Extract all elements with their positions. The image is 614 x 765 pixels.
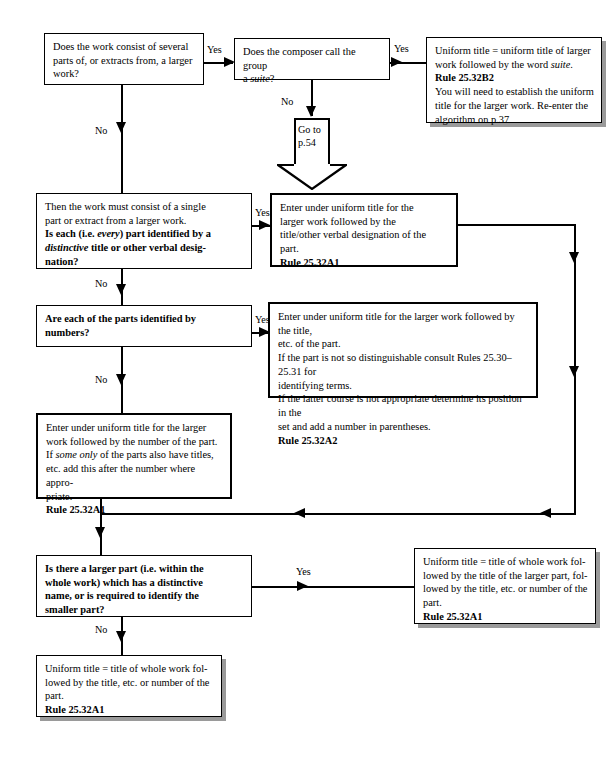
r4-line-4: etc. add this after the number where app… [46, 462, 223, 489]
edge-q3-to-r2-arrowhead [259, 220, 270, 230]
r3-rule: Rule 25.32A2 [278, 434, 529, 448]
q3-line-1: Then the work must consist of a single [45, 200, 244, 214]
r3-line-5: If the latter course is not appropriate … [278, 392, 529, 419]
edge-label-no-q4: No [95, 374, 107, 385]
edge-label-no-q2: No [281, 96, 293, 107]
q3-line3-italic: every [97, 228, 120, 239]
edge-label-no-q1: No [95, 125, 107, 136]
flowchart-canvas: Does the work consist of several parts o… [0, 0, 614, 765]
edge-q4-to-r4-arrowhead [116, 374, 126, 385]
edge-q3-to-q4-arrowhead [116, 284, 126, 295]
r3-line-6: set and add a number in parentheses. [278, 420, 529, 434]
result-verbal-designation-box[interactable]: Enter under uniform title for the larger… [270, 193, 458, 267]
r1-line2-post: . [570, 59, 573, 70]
merge-rail-arrowhead-right [540, 508, 551, 518]
r4-line3-post: of the parts also have titles, [97, 449, 213, 460]
q3-line-2: part or extract from a larger work. [45, 214, 244, 228]
r1-rule: Rule 25.32B2 [435, 71, 594, 85]
r3-line-1: Enter under uniform title for the larger… [278, 310, 529, 337]
result-uniform-title-suite-box[interactable]: Uniform title = uniform title of larger … [426, 37, 602, 123]
q1-line-2: parts of, or extracts from, a larger [53, 54, 196, 68]
r4-line-2: work followed by the number of the part. [46, 435, 223, 449]
r5-line-2: lowed by the title of the larger part, f… [423, 569, 588, 583]
r4-line-1: Enter under uniform title for the larger [46, 421, 223, 435]
goto-label: Go to p.54 [298, 123, 330, 150]
r1-line2-italic: suite [551, 59, 571, 70]
r1-line-1: Uniform title = uniform title of larger [435, 44, 594, 58]
result-whole-work-larger-part-box[interactable]: Uniform title = title of whole work fol-… [414, 548, 596, 624]
r5-rule: Rule 25.32A1 [423, 610, 588, 624]
goto-line-2: p.54 [298, 136, 330, 149]
q3-line4-post: title or other verbal desig- [88, 242, 206, 253]
q3-line-3: Is each (i.e. every) part identified by … [45, 227, 244, 241]
goto-line-1: Go to [298, 123, 330, 136]
edge-rail-to-q5-arrowhead [95, 527, 105, 538]
goto-page-54-shape[interactable]: Go to p.54 [277, 118, 347, 192]
q3-line3-post: ) part identified by a [120, 228, 211, 239]
question-parts-numbers-box[interactable]: Are each of the parts identified by numb… [36, 305, 252, 347]
q4-line-1: Are each of the parts identified by [45, 312, 244, 326]
r5-line-3: lowed by the title, etc. or number of th… [423, 582, 588, 596]
r6-line-2: lowed by the title, etc. or number of th… [45, 676, 214, 690]
question-composer-suite-box[interactable]: Does the composer call the group a suite… [234, 38, 390, 80]
q3-line3-pre: Is each (i.e. [45, 228, 97, 239]
q5-line-1: Is there a larger part (i.e. within the [45, 562, 244, 576]
r6-rule: Rule 25.32A1 [45, 703, 214, 717]
r2-line-1: Enter under uniform title for the [280, 201, 449, 215]
result-numbers-box[interactable]: Enter under uniform title for the larger… [268, 302, 538, 398]
r2-line-2: larger work followed by the [280, 215, 449, 229]
r6-line-1: Uniform title = title of whole work fol- [45, 662, 214, 676]
r4-line3-pre: If [46, 449, 56, 460]
question-larger-part-box[interactable]: Is there a larger part (i.e. within the … [36, 555, 252, 617]
r1-line-5: algorithm on p.37 [435, 113, 594, 127]
result-part-number-box[interactable]: Enter under uniform title for the larger… [36, 413, 232, 499]
edge-q5-to-r5-line [252, 586, 414, 588]
r4-line3-italic: some only [56, 449, 98, 460]
edge-label-yes-q5: Yes [296, 566, 311, 577]
r4-rule: Rule 25.32A1 [46, 503, 223, 517]
merge-rail-horizontal [100, 513, 576, 515]
question-several-parts-box[interactable]: Does the work consist of several parts o… [44, 33, 204, 85]
merge-rail-arrowhead-mid [294, 508, 305, 518]
q1-line-1: Does the work consist of several [53, 40, 196, 54]
edge-q5-to-r6-arrowhead [116, 631, 126, 642]
q2-line2-post: ? [270, 73, 275, 84]
r4-line-3: If some only of the parts also have titl… [46, 448, 223, 462]
r1-line2-pre: work followed by the word [435, 59, 551, 70]
q3-line-4: distinctive title or other verbal desig- [45, 241, 244, 255]
edge-label-yes-q2: Yes [394, 43, 409, 54]
edge-r2-to-rail-line [458, 224, 576, 226]
r5-line-1: Uniform title = title of whole work fol- [423, 555, 588, 569]
r4-line-5: priate. [46, 490, 223, 504]
q5-line-3: name, or is required to identify the [45, 589, 244, 603]
goto-shape-head [277, 164, 347, 190]
edge-label-yes-q1: Yes [207, 44, 222, 55]
r5-line-4: part. [423, 596, 588, 610]
edge-q1-to-q3-arrowhead [116, 122, 126, 133]
r3-line-2: etc. of the part. [278, 337, 529, 351]
r2-line-3: title/other verbal designation of the [280, 228, 449, 242]
q3-line4-italic: distinctive [45, 242, 88, 253]
r1-line-4: title for the larger work. Re-enter the [435, 99, 594, 113]
edge-label-yes-q3: Yes [255, 207, 270, 218]
q2-line2-italic: suite [250, 73, 270, 84]
question-distinctive-title-box[interactable]: Then the work must consist of a single p… [36, 193, 252, 269]
edge-q5-to-r5-arrowhead [297, 581, 308, 591]
right-rail-arrowhead-lower [569, 366, 579, 377]
edge-q2-to-goto-arrowhead [306, 106, 316, 117]
q5-line-4: smaller part? [45, 603, 244, 617]
q1-line-3: work? [53, 67, 196, 81]
r3-line-3: If the part is not so distinguishable co… [278, 351, 529, 378]
r3-line-4: identifying terms. [278, 379, 529, 393]
q5-line-2: whole work) which has a distinctive [45, 576, 244, 590]
r1-line-2: work followed by the word suite. [435, 58, 594, 72]
q3-line-5: nation? [45, 255, 244, 269]
r1-line-3: You will need to establish the uniform [435, 85, 594, 99]
q2-line-1: Does the composer call the group [243, 45, 382, 72]
r2-rule: Rule 25.32A1 [280, 256, 449, 270]
edge-label-no-q5: No [95, 624, 107, 635]
result-whole-work-title-box[interactable]: Uniform title = title of whole work fol-… [36, 655, 222, 717]
r2-line-4: part. [280, 242, 449, 256]
q4-line-2: numbers? [45, 326, 244, 340]
r6-line-3: part. [45, 689, 214, 703]
